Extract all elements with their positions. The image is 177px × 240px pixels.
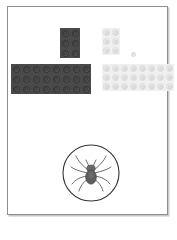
brick-stud	[166, 83, 173, 90]
brick-stud	[121, 83, 128, 90]
brick-stud	[83, 86, 90, 93]
brick-stud	[73, 66, 80, 73]
brick-stud-inner	[54, 67, 58, 71]
brick-stud-inner	[73, 41, 77, 45]
brick-stud	[33, 86, 40, 93]
brick-stud	[23, 86, 30, 93]
brick-stud-inner	[105, 67, 109, 71]
brick-stud-inner	[159, 67, 163, 71]
brick-stud-inner	[150, 76, 154, 80]
brick-stud-inner	[44, 87, 48, 91]
brick-stud-inner	[74, 67, 78, 71]
light-corner-piece-vertical-arm[interactable]	[102, 28, 120, 55]
brick-stud-inner	[141, 76, 145, 80]
brick-stud	[112, 83, 119, 90]
brick-stud	[148, 74, 155, 81]
brick-stud	[103, 47, 110, 54]
brick-stud	[157, 83, 164, 90]
brick-stud	[112, 38, 119, 45]
brick-stud	[139, 74, 146, 81]
brick-stud	[62, 30, 69, 37]
brick-stud	[157, 65, 164, 72]
brick-stud	[53, 76, 60, 83]
brick-stud	[103, 29, 110, 36]
brick-stud-inner	[105, 49, 109, 53]
brick-stud-inner	[132, 85, 136, 89]
dark-corner-piece-vertical-arm[interactable]	[60, 28, 80, 58]
brick-stud-inner	[73, 51, 77, 55]
brick-stud-inner	[54, 77, 58, 81]
brick-stud	[112, 47, 119, 54]
brick-stud	[112, 74, 119, 81]
brick-stud-inner	[34, 77, 38, 81]
brick-stud	[72, 40, 79, 47]
brick-stud	[72, 30, 79, 37]
brick-stud	[33, 76, 40, 83]
brick-stud-inner	[24, 87, 28, 91]
brick-stud-inner	[123, 85, 127, 89]
brick-stud	[43, 86, 50, 93]
brick-stud	[73, 86, 80, 93]
brick-stud-inner	[24, 77, 28, 81]
brick-stud	[83, 66, 90, 73]
brick-stud-inner	[73, 31, 77, 35]
brick-stud-inner	[123, 76, 127, 80]
brick-stud-inner	[74, 77, 78, 81]
brick-stud	[166, 74, 173, 81]
brick-stud-inner	[114, 67, 118, 71]
light-corner-piece-horizontal-arm[interactable]	[102, 64, 174, 91]
brick-stud-inner	[114, 76, 118, 80]
brick-stud-inner	[168, 76, 172, 80]
brick-stud-inner	[64, 77, 68, 81]
brick-stud-inner	[24, 67, 28, 71]
spider-badge[interactable]	[62, 144, 120, 202]
spider-body	[86, 165, 97, 184]
brick-stud	[62, 40, 69, 47]
brick-stud	[103, 38, 110, 45]
brick-stud	[139, 83, 146, 90]
brick-stud-inner	[105, 31, 109, 35]
brick-stud-inner	[54, 87, 58, 91]
brick-stud	[23, 66, 30, 73]
brick-stud	[103, 65, 110, 72]
brick-stud	[43, 76, 50, 83]
brick-stud	[72, 50, 79, 57]
brick-stud	[63, 86, 70, 93]
brick-stud	[121, 65, 128, 72]
brick-stud-inner	[150, 85, 154, 89]
brick-stud-inner	[150, 67, 154, 71]
brick-stud-inner	[105, 40, 109, 44]
brick-stud	[157, 74, 164, 81]
brick-stud	[83, 76, 90, 83]
brick-stud-inner	[84, 67, 88, 71]
brick-stud	[23, 76, 30, 83]
spider-badge-svg	[62, 144, 120, 202]
brick-stud	[112, 29, 119, 36]
brick-stud-inner	[114, 49, 118, 53]
brick-stud-inner	[14, 87, 18, 91]
brick-stud	[130, 83, 137, 90]
brick-stud	[13, 76, 20, 83]
brick-stud-inner	[63, 51, 67, 55]
brick-stud	[130, 74, 137, 81]
brick-stud	[139, 65, 146, 72]
brick-stud-inner	[168, 67, 172, 71]
brick-stud	[53, 86, 60, 93]
brick-stud	[13, 86, 20, 93]
brick-stud	[63, 66, 70, 73]
brick-stud	[13, 66, 20, 73]
brick-stud	[148, 65, 155, 72]
brick-stud	[103, 83, 110, 90]
brick-stud	[53, 66, 60, 73]
dark-corner-piece-horizontal-arm[interactable]	[11, 64, 91, 94]
brick-stud-inner	[84, 87, 88, 91]
brick-stud-inner	[105, 85, 109, 89]
brick-stud-inner	[114, 40, 118, 44]
loose-stud[interactable]	[131, 52, 136, 57]
brick-stud	[62, 50, 69, 57]
brick-stud-inner	[159, 76, 163, 80]
brick-stud	[103, 74, 110, 81]
brick-stud-inner	[123, 67, 127, 71]
brick-stud-inner	[168, 85, 172, 89]
brick-stud-inner	[159, 85, 163, 89]
